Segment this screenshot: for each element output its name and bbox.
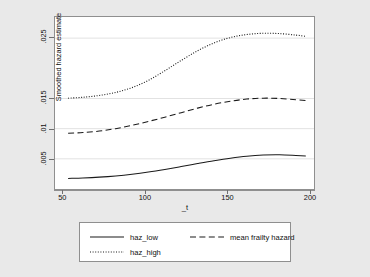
legend-key-dashed-line-icon xyxy=(190,232,224,242)
chart-figure: Smoothed hazard estimate .005.01.015.025… xyxy=(0,0,370,277)
y-tick-mark xyxy=(49,159,54,160)
y-tick-mark xyxy=(49,98,54,99)
y-tick-label: .015 xyxy=(39,85,48,111)
legend-item-haz-low[interactable]: haz_low xyxy=(90,230,158,244)
x-tick-label: 200 xyxy=(295,193,325,202)
y-tick-label: .005 xyxy=(39,146,48,172)
series-line-haz-high xyxy=(68,33,306,98)
legend-key-dotted-line-icon xyxy=(90,247,124,257)
series-line-haz-low xyxy=(68,155,306,179)
legend-item-haz-high[interactable]: haz_high xyxy=(90,245,161,259)
series-line-mean-frailty-hazard xyxy=(68,98,306,133)
x-axis-title: _t xyxy=(0,203,370,212)
y-tick-mark xyxy=(49,37,54,38)
y-axis-title: Smoothed hazard estimate xyxy=(54,0,68,122)
plot-area xyxy=(54,16,315,190)
x-tick-label: 150 xyxy=(212,193,242,202)
y-tick-label: .025 xyxy=(39,24,48,50)
x-axis-line xyxy=(54,190,315,191)
legend-item-mean-frailty-hazard[interactable]: mean frailty hazard xyxy=(190,230,295,244)
y-tick-mark xyxy=(49,129,54,130)
chart-legend: haz_lowmean frailty hazardhaz_high xyxy=(79,222,291,262)
series-lines xyxy=(55,17,314,189)
x-tick-label: 100 xyxy=(130,193,160,202)
legend-label: haz_high xyxy=(130,248,161,257)
legend-label: mean frailty hazard xyxy=(230,233,295,242)
legend-key-solid-line-icon xyxy=(90,232,124,242)
x-tick-label: 50 xyxy=(47,193,77,202)
legend-label: haz_low xyxy=(130,233,158,242)
y-tick-label: .01 xyxy=(39,115,48,141)
